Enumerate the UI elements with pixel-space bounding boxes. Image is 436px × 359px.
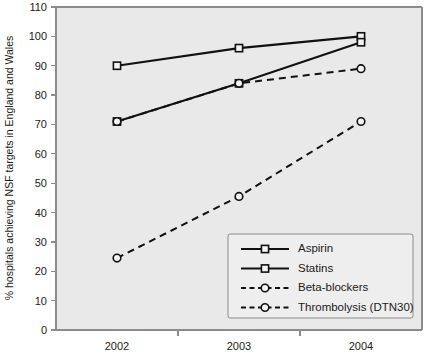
data-point-marker bbox=[113, 118, 121, 126]
y-tick-label: 100 bbox=[29, 30, 47, 42]
y-tick-label: 90 bbox=[35, 60, 47, 72]
legend-item-label: Aspirin bbox=[298, 242, 333, 254]
y-tick-label: 50 bbox=[35, 177, 47, 189]
chart-canvas: 0102030405060708090100110 200220032004 %… bbox=[0, 0, 436, 359]
legend-item-label: Statins bbox=[298, 262, 333, 274]
data-point-marker bbox=[235, 193, 243, 201]
data-point-marker bbox=[261, 265, 268, 272]
legend-item-label: Beta-blockers bbox=[298, 281, 369, 293]
chart-legend: AspirinStatinsBeta-blockersThrombolysis … bbox=[228, 234, 414, 318]
data-point-marker bbox=[357, 39, 364, 46]
y-tick-label: 70 bbox=[35, 118, 47, 130]
data-point-marker bbox=[357, 118, 365, 126]
data-point-marker bbox=[261, 245, 268, 252]
data-point-marker bbox=[261, 304, 269, 312]
x-tick-label: 2004 bbox=[349, 340, 373, 352]
legend-item-label: Thrombolysis (DTN30) bbox=[298, 301, 414, 313]
x-tick-label: 2002 bbox=[105, 340, 129, 352]
y-tick-label: 30 bbox=[35, 236, 47, 248]
y-tick-label: 0 bbox=[41, 324, 47, 336]
data-point-marker bbox=[235, 80, 243, 88]
line-chart: 0102030405060708090100110 200220032004 %… bbox=[0, 0, 436, 359]
y-tick-label: 80 bbox=[35, 89, 47, 101]
data-point-marker bbox=[235, 45, 242, 52]
y-tick-label: 20 bbox=[35, 265, 47, 277]
data-point-marker bbox=[113, 254, 121, 262]
data-point-marker bbox=[357, 65, 365, 73]
data-point-marker bbox=[261, 284, 269, 292]
x-tick-label: 2003 bbox=[227, 340, 251, 352]
data-point-marker bbox=[113, 62, 120, 69]
y-tick-label: 60 bbox=[35, 148, 47, 160]
y-axis-title: % hospitals achieving NSF targets in Eng… bbox=[3, 36, 15, 301]
y-tick-label: 10 bbox=[35, 295, 47, 307]
y-tick-label: 40 bbox=[35, 207, 47, 219]
y-tick-label: 110 bbox=[29, 1, 47, 13]
